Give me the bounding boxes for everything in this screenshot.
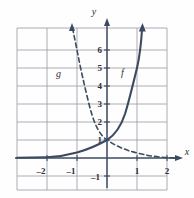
x-tick-label: 2: [165, 166, 170, 176]
curve-label-f: f: [121, 67, 125, 78]
y-tick-label: 5: [98, 63, 103, 73]
series-f: f: [17, 23, 146, 158]
y-tick-label: 2: [98, 117, 103, 127]
y-tick-label: –1: [90, 172, 101, 182]
graph-figure: –2 –1 1 2 –1 1 2 3 4 5 6 g f x y: [0, 0, 194, 198]
y-axis-label: y: [91, 6, 97, 17]
x-tick-label: –1: [66, 166, 77, 176]
x-tick-label: 1: [135, 166, 140, 176]
x-axis-arrow: [175, 155, 183, 161]
y-axis-arrow: [104, 18, 110, 26]
curve-g-arrow: [69, 23, 75, 31]
curve-f-arrow: [139, 23, 146, 32]
y-tick-label: 3: [98, 99, 103, 109]
x-tick-label: –2: [36, 166, 47, 176]
y-tick-label: 4: [98, 81, 103, 91]
series-g: g: [56, 23, 176, 158]
curve-g-path: [73, 28, 177, 158]
coordinate-plane-svg: –2 –1 1 2 –1 1 2 3 4 5 6 g f x y: [0, 0, 194, 198]
curve-label-g: g: [56, 68, 61, 79]
y-tick-label: 6: [98, 45, 103, 55]
x-axis-label: x: [184, 146, 190, 157]
curve-f-path: [17, 30, 142, 158]
tick-labels: –2 –1 1 2 –1 1 2 3 4 5 6: [36, 45, 170, 182]
